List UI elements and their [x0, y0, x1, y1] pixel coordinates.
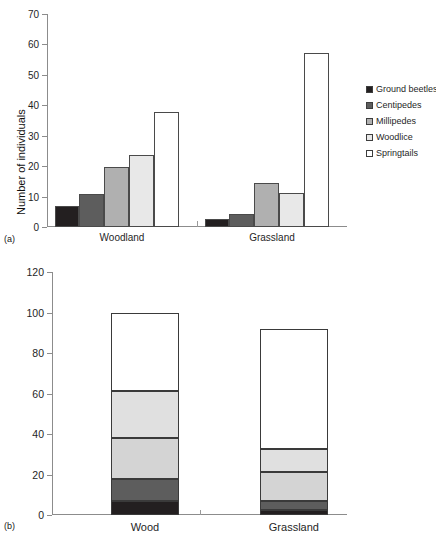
legend-label: Ground beetles: [376, 84, 436, 94]
x-axis-category-label: Grassland: [230, 521, 358, 533]
y-axis-tick-label: 10: [28, 191, 39, 202]
legend-swatch-icon: [366, 86, 373, 93]
y-axis-tick: [47, 353, 52, 354]
bar: [79, 194, 104, 227]
legend-item: Ground beetles: [366, 84, 436, 94]
y-axis-tick: [42, 227, 47, 228]
bar: [279, 193, 304, 227]
y-axis-tick-label: 80: [32, 347, 44, 359]
legend-item: Millipedes: [366, 116, 436, 126]
stack-segment: [260, 510, 328, 515]
chart-panel-a: (a) Number of individuals 01020304050607…: [0, 0, 436, 250]
y-axis-tick-label: 120: [26, 266, 44, 278]
stack-segment: [111, 501, 179, 515]
legend-label: Woodlice: [376, 132, 413, 142]
stack-segment: [111, 313, 179, 391]
x-axis-category-label: Wood: [81, 521, 209, 533]
legend-label: Springtails: [376, 148, 418, 158]
y-axis-tick-label: 60: [32, 388, 44, 400]
y-axis-tick: [47, 394, 52, 395]
y-axis-tick-label: 20: [28, 161, 39, 172]
y-axis-tick-label: 0: [38, 509, 44, 521]
stack-segment: [260, 449, 328, 472]
y-axis-tick-label: 20: [32, 469, 44, 481]
y-axis-tick: [47, 434, 52, 435]
y-axis-tick-label: 0: [33, 222, 39, 233]
y-axis-tick-label: 30: [28, 130, 39, 141]
figure: (a) Number of individuals 01020304050607…: [0, 0, 436, 537]
panel-b-y-axis: [52, 272, 53, 515]
bar: [304, 53, 329, 227]
panel-b-tag: (b): [4, 521, 15, 531]
y-axis-tick: [47, 313, 52, 314]
legend-swatch-icon: [366, 102, 373, 109]
panel-a-y-axis-title: Number of individuals: [15, 109, 27, 215]
bar: [55, 206, 80, 227]
y-axis-tick-label: 100: [26, 307, 44, 319]
legend-item: Centipedes: [366, 100, 436, 110]
bar: [205, 219, 230, 227]
x-axis-category-label: Grassland: [197, 232, 347, 243]
legend-label: Millipedes: [376, 116, 416, 126]
y-axis-tick-label: 70: [28, 9, 39, 20]
stack-segment: [111, 479, 179, 501]
x-axis-category-label: Woodland: [47, 232, 197, 243]
stacked-bar: Grassland: [260, 272, 328, 515]
stack-segment: [260, 501, 328, 510]
stack-segment: [111, 438, 179, 478]
chart-panel-b: (b) Number of individuals 02040608010012…: [0, 250, 436, 537]
legend-swatch-icon: [366, 118, 373, 125]
legend-item: Woodlice: [366, 132, 436, 142]
legend-swatch-icon: [366, 150, 373, 157]
panel-b-plot-area: 020406080100120 WoodGrassland: [52, 272, 347, 515]
stack-segment: [111, 391, 179, 439]
legend-label: Centipedes: [376, 100, 422, 110]
stack-segment: [260, 472, 328, 501]
bar: [229, 214, 254, 227]
x-axis-group-separator: [200, 510, 201, 515]
bar: [129, 155, 154, 227]
bar: [254, 183, 279, 227]
y-axis-tick: [47, 272, 52, 273]
legend-swatch-icon: [366, 134, 373, 141]
y-axis-tick-label: 40: [32, 428, 44, 440]
stack-segment: [260, 329, 328, 449]
legend-item: Springtails: [366, 148, 436, 158]
bar: [154, 112, 179, 227]
y-axis-tick: [47, 475, 52, 476]
y-axis-tick-label: 50: [28, 69, 39, 80]
bar-group: Grassland: [197, 14, 347, 227]
stacked-bar: Wood: [111, 272, 179, 515]
bar-group: Woodland: [47, 14, 197, 227]
panel-a-legend: Ground beetlesCentipedesMillipedesWoodli…: [366, 84, 436, 164]
y-axis-tick-label: 60: [28, 39, 39, 50]
panel-a-plot-area: 010203040506070 WoodlandGrassland: [47, 14, 347, 227]
y-axis-tick: [47, 515, 52, 516]
bar: [104, 167, 129, 227]
panel-a-tag: (a): [4, 234, 15, 244]
y-axis-tick-label: 40: [28, 100, 39, 111]
